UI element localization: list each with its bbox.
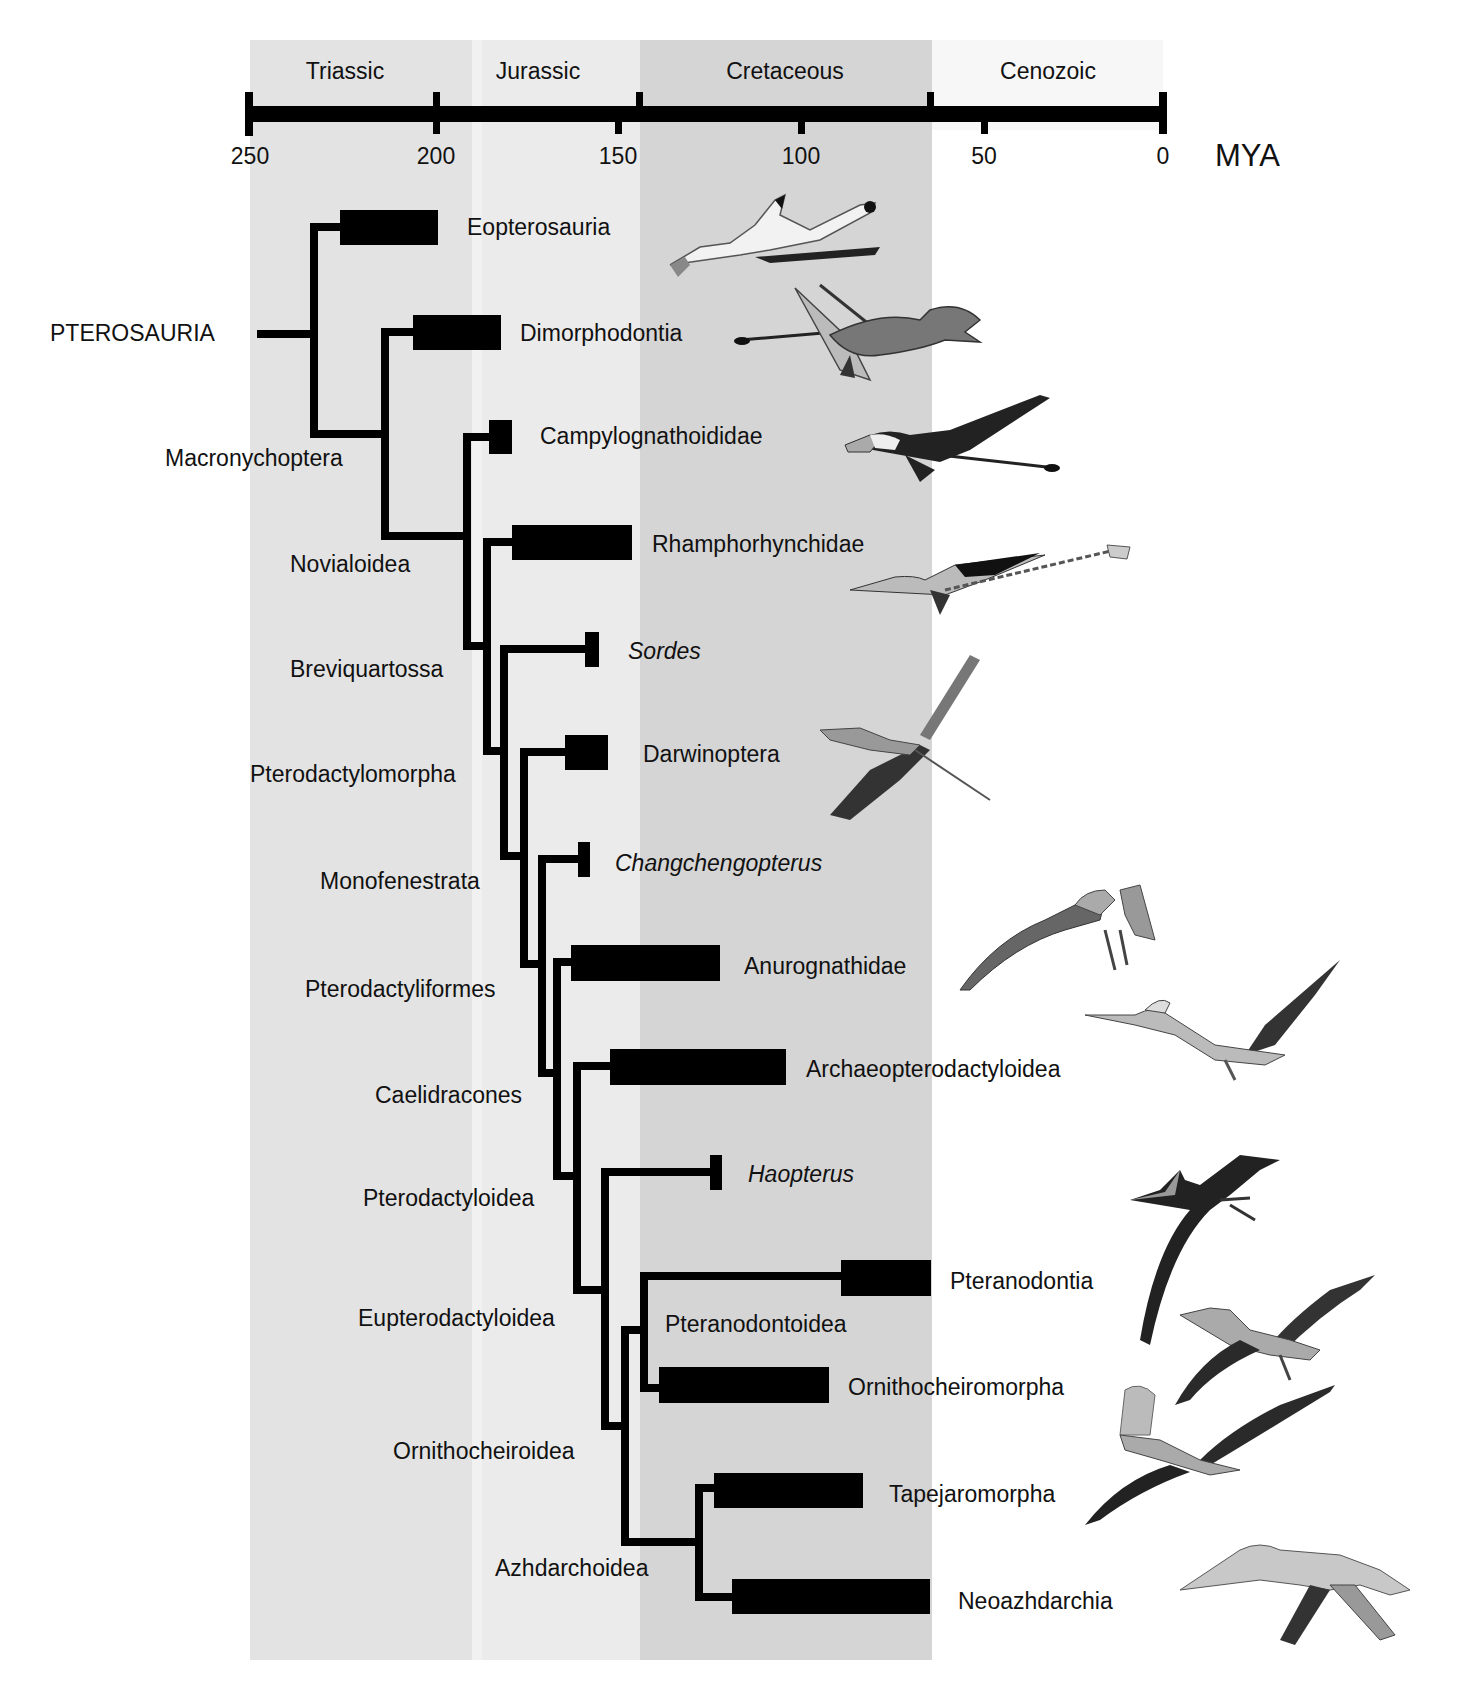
boundary-tick-jurassic-cretaceous [636,92,643,114]
range-bar-archaeopterodactyloidea [610,1049,786,1085]
range-bar-anurognathidae [571,945,720,981]
tick-label-150: 150 [599,143,637,170]
branch-horizontal [601,1168,715,1176]
node-label-pterodactylomorpha: Pterodactylomorpha [250,763,456,786]
taxon-label-ornithocheiromorpha: Ornithocheiromorpha [848,1376,1064,1399]
branch-horizontal [640,1272,843,1280]
branch-vertical [573,1062,581,1294]
branch-vertical [483,538,491,755]
range-bar-haopterus [710,1155,722,1190]
period-label-triassic: Triassic [306,58,384,85]
eopterosaur-illustration [660,185,900,285]
node-label-monofenestrata: Monofenestrata [320,870,480,893]
branch-vertical [621,1326,629,1546]
timeline-axis-bar [248,106,1165,122]
taxon-label-darwinoptera: Darwinoptera [643,743,780,766]
taxon-label-changchengopterus: Changchengopterus [615,852,822,875]
branch-horizontal [310,430,389,438]
node-label-eupterodactyloidea: Eupterodactyloidea [358,1307,555,1330]
root-branch [257,330,318,338]
taxon-label-campylognathoididae: Campylognathoididae [540,425,763,448]
pterosaur-phylogeny-figure: Triassic Jurassic Cretaceous Cenozoic 25… [0,0,1464,1695]
node-label-novialoidea: Novialoidea [290,553,410,576]
node-label-ornithocheiroidea: Ornithocheiroidea [393,1440,575,1463]
taxon-label-archaeopterodactyloidea: Archaeopterodactyloidea [806,1058,1060,1081]
branch-horizontal [500,645,588,653]
axis-tick-100 [798,114,805,134]
branch-horizontal [553,958,573,966]
range-bar-pteranodontia [841,1260,931,1296]
taxon-label-neoazhdarchia: Neoazhdarchia [958,1590,1113,1613]
branch-vertical [695,1484,703,1601]
taxon-label-anurognathidae: Anurognathidae [744,955,906,978]
range-bar-dimorphodontia [413,315,501,350]
branch-horizontal [381,532,467,540]
taxon-label-dimorphodontia: Dimorphodontia [520,322,682,345]
tapejarid-illustration [1080,1380,1340,1530]
period-label-cretaceous: Cretaceous [726,58,844,85]
tick-label-50: 50 [971,143,997,170]
branch-vertical [520,748,528,968]
darwinopterus-illustration [820,650,1000,825]
campylognathoides-illustration [840,390,1070,500]
axis-tick-50 [981,114,988,134]
taxon-label-tapejaromorpha: Tapejaromorpha [889,1483,1055,1506]
range-bar-campylognathoididae [489,420,512,454]
branch-horizontal [695,1593,734,1601]
tick-label-250: 250 [231,143,269,170]
branch-vertical [381,328,389,540]
branch-vertical [500,645,508,860]
range-bar-eopterosauria [340,210,438,245]
taxon-label-eopterosauria: Eopterosauria [467,216,610,239]
range-bar-changchengopterus [578,842,590,877]
taxon-label-sordes: Sordes [628,640,701,663]
branch-vertical [640,1272,648,1392]
triassic-band [250,40,478,1660]
tick-label-200: 200 [417,143,455,170]
branch-vertical [553,958,561,1180]
range-bar-rhamphorhynchidae [512,525,632,560]
boundary-tick-present [1159,92,1167,134]
boundary-tick-triassic-jurassic [433,92,440,134]
node-label-breviquartossa: Breviquartossa [290,658,443,681]
range-bar-tapejaromorpha [714,1473,863,1508]
tick-label-0: 0 [1157,143,1170,170]
boundary-tick-triassic-start [245,92,253,136]
tick-label-100: 100 [782,143,820,170]
branch-horizontal [520,748,567,756]
period-label-jurassic: Jurassic [496,58,580,85]
node-label-pterodactyloidea: Pterodactyloidea [363,1187,534,1210]
branch-horizontal [381,328,415,336]
period-label-cenozoic: Cenozoic [1000,58,1096,85]
axis-unit-label: MYA [1215,138,1280,174]
archaeopterodactyloid-illustration [1085,955,1345,1085]
node-label-azhdarchoidea: Azhdarchoidea [495,1557,648,1580]
branch-horizontal [573,1062,612,1070]
azhdarchid-illustration [1180,1530,1420,1650]
range-bar-neoazhdarchia [732,1579,930,1614]
branch-horizontal [621,1538,703,1546]
node-label-caelidracones: Caelidracones [375,1084,522,1107]
triassic-jurassic-stripe [472,40,482,1660]
range-bar-sordes [585,632,599,667]
branch-vertical [310,223,318,438]
taxon-label-pteranodontia: Pteranodontia [950,1270,1093,1293]
range-bar-ornithocheiromorpha [659,1367,829,1403]
taxon-label-rhamphorhynchidae: Rhamphorhynchidae [652,533,864,556]
boundary-tick-cretaceous-cenozoic [927,92,934,114]
branch-horizontal [640,1384,661,1392]
axis-tick-150 [615,114,622,134]
node-label-pteranodontoidea: Pteranodontoidea [665,1313,847,1336]
taxon-label-haopterus: Haopterus [748,1163,854,1186]
branch-horizontal [310,223,342,231]
branch-vertical [463,433,471,650]
branch-horizontal [483,538,514,546]
branch-horizontal [538,855,580,863]
branch-horizontal [463,433,491,441]
node-label-macronychoptera: Macronychoptera [165,447,343,470]
range-bar-darwinoptera [565,735,608,770]
dimorphodon-illustration [730,280,990,395]
rhamphorhynchus-illustration [845,535,1135,625]
node-label-pterodactyliformes: Pterodactyliformes [305,978,495,1001]
branch-horizontal [695,1484,716,1492]
